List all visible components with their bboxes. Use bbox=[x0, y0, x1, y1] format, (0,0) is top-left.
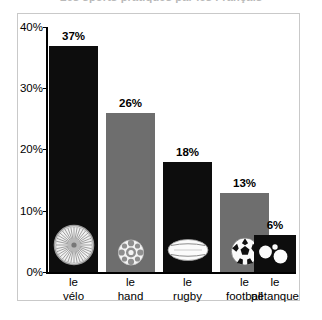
y-tick-40 bbox=[43, 27, 47, 28]
plot-area: 40% 30% 20% 10% 0% 37% bbox=[0, 0, 322, 320]
x-label-rugby-line2: rugby bbox=[163, 290, 212, 304]
x-axis-line bbox=[46, 272, 296, 274]
bar-rugby[interactable]: 18% bbox=[163, 162, 212, 272]
handball-ball-icon bbox=[117, 239, 144, 270]
rugby-ball-icon bbox=[167, 238, 209, 266]
bar-value-petanque: 6% bbox=[267, 219, 284, 231]
y-tick-label-20: 20% bbox=[1, 143, 43, 155]
x-label-rugby-line1: le bbox=[163, 276, 212, 290]
y-tick-label-0: 0% bbox=[1, 266, 43, 278]
y-tick-30 bbox=[43, 88, 47, 89]
x-label-velo: le vélo bbox=[49, 276, 98, 303]
bar-value-rugby: 18% bbox=[176, 146, 199, 158]
y-tick-10 bbox=[43, 211, 47, 212]
x-label-petanque-line1: le bbox=[244, 276, 306, 290]
x-label-hand-line1: le bbox=[106, 276, 155, 290]
petanque-boules-icon bbox=[256, 242, 294, 268]
y-tick-20 bbox=[43, 149, 47, 150]
bar-chart-figure: Les sports pratiqués par les Français 40… bbox=[0, 0, 322, 320]
x-label-velo-line2: vélo bbox=[49, 290, 98, 304]
y-tick-label-40: 40% bbox=[1, 21, 43, 33]
bar-value-velo: 37% bbox=[62, 30, 85, 42]
y-tick-0 bbox=[43, 272, 47, 273]
x-label-petanque: le pétanque bbox=[244, 276, 306, 303]
x-label-velo-line1: le bbox=[49, 276, 98, 290]
bar-value-football: 13% bbox=[233, 177, 256, 189]
x-label-hand: le hand bbox=[106, 276, 155, 303]
bicycle-wheel-icon bbox=[53, 224, 95, 270]
bar-value-hand: 26% bbox=[119, 97, 142, 109]
x-label-petanque-line2: pétanque bbox=[244, 290, 306, 304]
bar-petanque[interactable]: 6% bbox=[254, 235, 296, 272]
x-label-hand-line2: hand bbox=[106, 290, 155, 304]
y-tick-label-30: 30% bbox=[1, 82, 43, 94]
x-label-rugby: le rugby bbox=[163, 276, 212, 303]
y-tick-label-10: 10% bbox=[1, 205, 43, 217]
bar-hand[interactable]: 26% bbox=[106, 113, 155, 272]
bar-velo[interactable]: 37% bbox=[49, 46, 98, 272]
